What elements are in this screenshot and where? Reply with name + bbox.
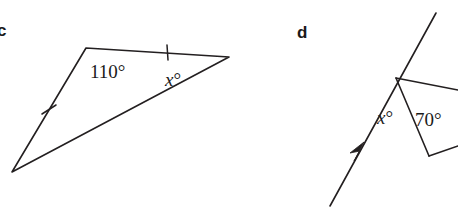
degree-symbol-d: ° <box>385 107 393 128</box>
degree-symbol-c: ° <box>173 69 181 90</box>
angle-label-110-degrees: 110° <box>90 62 125 81</box>
angle-label-x-degrees-d: x° <box>377 108 393 127</box>
angle-label-x-degrees-c: x° <box>165 70 181 89</box>
ray-vertex-right <box>396 78 458 90</box>
angle-label-70-degrees: 70° <box>415 110 442 129</box>
triangle-d-bottom-leg <box>429 146 458 156</box>
figure-sheet: c d 110° x° x° 70° <box>0 0 458 211</box>
figure-label-d: d <box>297 24 307 41</box>
figure-label-c: c <box>0 22 6 39</box>
figure-d-drawing <box>0 0 458 211</box>
